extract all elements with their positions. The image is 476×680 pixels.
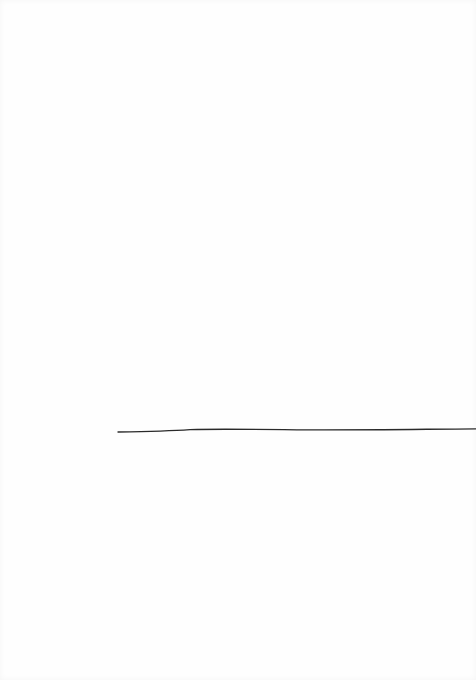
line-stroke xyxy=(118,429,476,432)
document-page xyxy=(0,0,476,680)
horizontal-rule-line xyxy=(0,0,476,680)
